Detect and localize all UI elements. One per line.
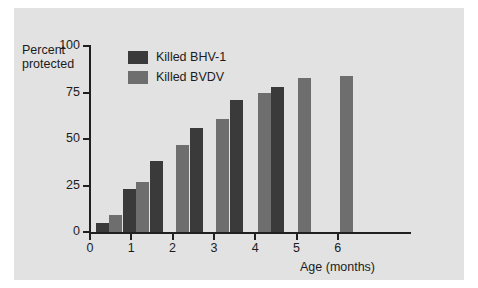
x-axis-tick — [89, 233, 91, 240]
chart-legend: Killed BHV-1Killed BVDV — [128, 50, 226, 90]
legend-label: Killed BHV-1 — [156, 50, 226, 64]
x-axis-tick — [337, 233, 339, 240]
x-axis-line — [89, 232, 411, 234]
y-axis-tick — [83, 92, 90, 94]
x-axis-title: Age (months) — [300, 260, 375, 274]
y-axis-tick-label: 25 — [40, 179, 80, 192]
x-axis-tick-label: 4 — [245, 242, 265, 255]
y-axis-title: Percent protected — [22, 44, 74, 71]
x-axis-tick-label: 1 — [121, 242, 141, 255]
legend-swatch-icon — [128, 51, 148, 64]
x-axis-tick-label: 0 — [80, 242, 100, 255]
y-axis-tick-label: 0 — [40, 225, 80, 238]
x-axis-tick-label: 6 — [328, 242, 348, 255]
x-axis-tick — [213, 233, 215, 240]
legend-swatch-icon — [128, 71, 148, 84]
y-axis-tick-label: 75 — [40, 86, 80, 99]
chart-figure: 02550751000123456 Percent protected Age … — [0, 0, 478, 288]
legend-item: Killed BHV-1 — [128, 50, 226, 64]
y-axis-tick-label: 50 — [40, 132, 80, 145]
x-axis-tick-label: 2 — [163, 242, 183, 255]
x-axis-tick — [254, 233, 256, 240]
legend-label: Killed BVDV — [156, 70, 224, 84]
y-axis-tick — [83, 138, 90, 140]
x-axis-tick-label: 3 — [204, 242, 224, 255]
x-axis-tick — [172, 233, 174, 240]
x-axis-tick — [130, 233, 132, 240]
y-axis-tick — [83, 185, 90, 187]
x-axis-tick-label: 5 — [287, 242, 307, 255]
x-axis-tick — [296, 233, 298, 240]
legend-item: Killed BVDV — [128, 70, 226, 84]
y-axis-tick — [83, 45, 90, 47]
